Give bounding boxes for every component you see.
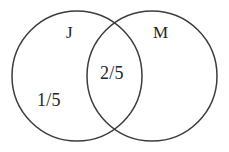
- region-value-intersection: 2/5: [100, 64, 124, 82]
- venn-diagram-figure: J M 2/5 1/5: [0, 0, 229, 152]
- set-label-m: M: [153, 24, 168, 41]
- set-label-j: J: [66, 24, 73, 41]
- region-value-j-only: 1/5: [37, 91, 61, 109]
